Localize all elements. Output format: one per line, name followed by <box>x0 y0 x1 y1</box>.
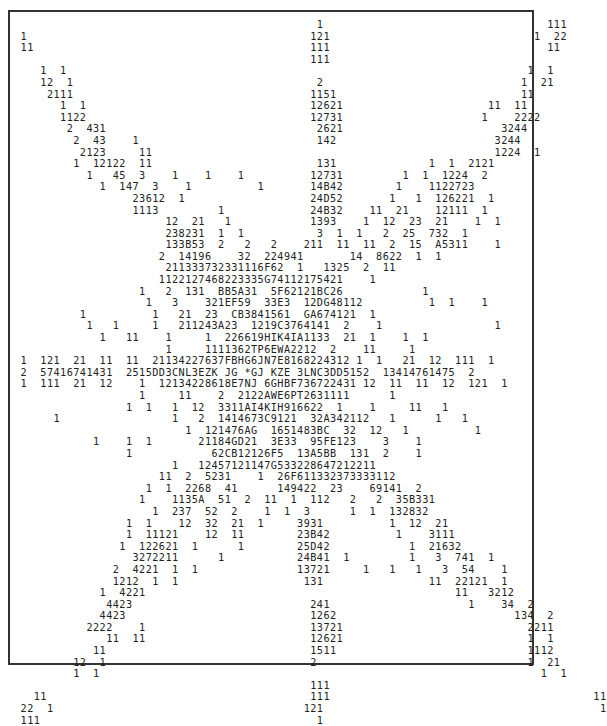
grid-row: 12 1 2 1 21 <box>14 657 607 669</box>
grid-row: 1 121 21 11 11 21134227637FBHG6JN7E81682… <box>14 355 607 367</box>
grid-row: 1 147 3 1 1 14B42 1 1122723 <box>14 181 607 193</box>
grid-row: 238231 1 1 3 1 1 2 25 732 1 <box>14 228 607 240</box>
grid-row: 1 1135A 51 2 11 1 112 2 2 35B331 <box>14 494 607 506</box>
grid-row: 1 1 1 1 <box>14 65 607 77</box>
character-grid: 1 111 1 121 1 22 11 111 <box>14 19 607 726</box>
grid-row: 11 11 12621 1 1 <box>14 633 607 645</box>
grid-row: 2 43 1 142 3244 <box>14 135 607 147</box>
grid-row: 2111 1151 11 <box>14 89 607 101</box>
grid-row: 1 12122 11 131 1 1 2121 <box>14 158 607 170</box>
grid-row: 11 1511 1112 <box>14 645 607 657</box>
grid-row: 1 45 3 1 1 1 12731 1 1 1224 2 <box>14 170 607 182</box>
figure-frame: 1 111 1 121 1 22 11 111 <box>8 10 534 665</box>
grid-row: 1 1 2 1414673C9121 32A342112 1 1 1 <box>14 413 607 425</box>
grid-row: 1212 1 1 131 11 22121 1 <box>14 576 607 588</box>
grid-row: 1 1 1 1 <box>14 668 607 680</box>
grid-row: 2123 11 1224 1 <box>14 147 607 159</box>
grid-row: 1 1 1 21184GD21 3E33 95FE123 3 1 <box>14 436 607 448</box>
grid-row: 12 21 1 1393 1 12 23 21 1 1 <box>14 216 607 228</box>
grid-row: 1 12457121147G533228647212211 <box>14 460 607 472</box>
grid-row: 4423 241 1 34 2 <box>14 599 607 611</box>
grid-row: 1 111 <box>14 19 607 31</box>
grid-row: 1 1111362TP6EWA2212 2 11 1 <box>14 344 607 356</box>
grid-row: 2 4221 1 1 13721 1 1 1 3 54 1 <box>14 564 607 576</box>
grid-row: 1 4221 11 3212 <box>14 587 607 599</box>
grid-row: 1 122621 1 1 25D42 1 21632 <box>14 541 607 553</box>
grid-row: 211333732331116F62 1 1325 2 11 <box>14 262 607 274</box>
grid-row: 1 1 1 211243A23 1219C3764141 2 1 1 <box>14 320 607 332</box>
grid-row: 23612 1 24D52 1 1 126221 1 <box>14 193 607 205</box>
grid-row: 111 <box>14 680 607 692</box>
grid-row: 1122127468223335G74112175421 1 <box>14 274 607 286</box>
grid-row: 3272211 1 24B41 1 1 3 741 1 <box>14 552 607 564</box>
grid-row: 1 1 1 12 3311AI4KIH916622 1 1 11 1 <box>14 402 607 414</box>
grid-row: 1 1 21 23 CB3841561 GA674121 1 <box>14 309 607 321</box>
grid-row: 1 1 12 32 21 1 3931 1 12 21 <box>14 518 607 530</box>
grid-row: 1 237 52 2 1 1 3 1 1 132832 <box>14 506 607 518</box>
grid-row: 133B53 2 2 2 211 11 11 2 15 A5311 1 <box>14 239 607 251</box>
grid-row: 1 121476AG 1651483BC 32 12 1 1 <box>14 425 607 437</box>
grid-row: 2 14196 32 224941 14 8622 1 1 <box>14 251 607 263</box>
grid-row: 1122 12731 1 2222 <box>14 112 607 124</box>
grid-row: 2222 1 13721 2211 <box>14 622 607 634</box>
grid-row: 1113 1 24B32 11 21 12111 1 <box>14 205 607 217</box>
grid-row: 11 111 11 <box>14 42 607 54</box>
grid-row: 111 1 <box>14 715 607 726</box>
grid-row: 2 57416741431 2515DD3CNL3EZK JG *GJ KZE … <box>14 367 607 379</box>
grid-row: 1 62CB12126F5 13A5BB 131 2 1 <box>14 448 607 460</box>
grid-row: 1 2 131 BB5A31 5F62121BC26 1 <box>14 286 607 298</box>
grid-row: 12 1 2 1 21 <box>14 77 607 89</box>
grid-row: 1 1 2268 41 149422 23 69141 2 <box>14 483 607 495</box>
grid-row: 111 <box>14 54 607 66</box>
grid-row: 1 11 2 2122AWE6PT2631111 1 <box>14 390 607 402</box>
grid-row: 1 11121 12 11 23B42 1 3111 <box>14 529 607 541</box>
grid-row: 11 111 11 <box>14 691 607 703</box>
grid-row: 22 1 121 1 <box>14 703 607 715</box>
grid-row: 4423 1262 134 2 <box>14 610 607 622</box>
grid-row: 2 431 2621 3244 <box>14 123 607 135</box>
grid-row: 1 111 21 12 1 12134228618E7NJ 6GHBF73672… <box>14 378 607 390</box>
grid-row: 11 2 5231 1 26F611332373333112 <box>14 471 607 483</box>
grid-row: 1 3 321EF59 33E3 12DG48112 1 1 1 <box>14 297 607 309</box>
grid-row: 1 121 1 22 <box>14 31 607 43</box>
grid-row: 1 1 12621 11 11 <box>14 100 607 112</box>
grid-row: 1 11 1 1 226619HIK4IA1133 21 1 1 1 <box>14 332 607 344</box>
